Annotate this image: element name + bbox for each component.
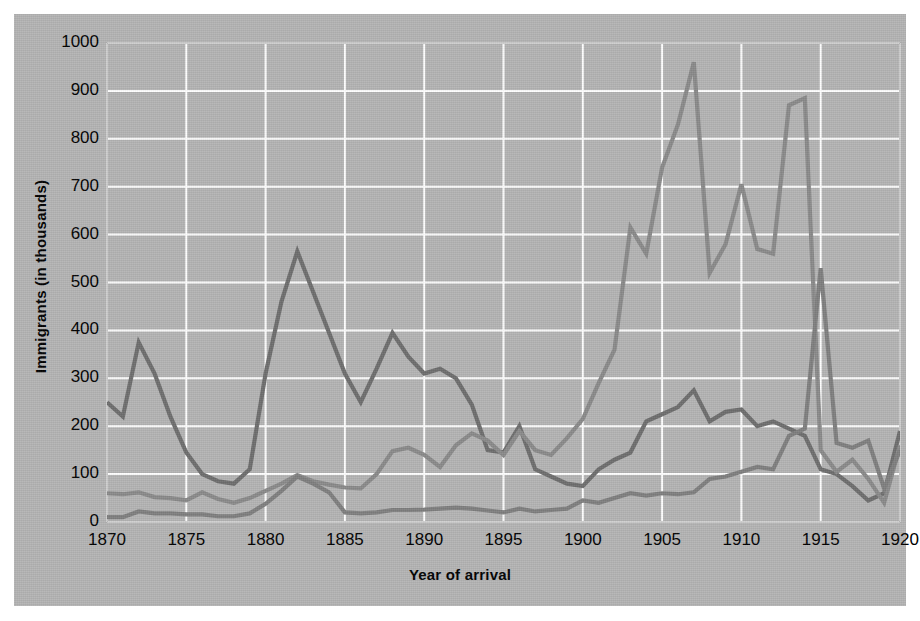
line-chart-plot [0,0,920,621]
chart-figure: 01002003004005006007008009001000 1870187… [0,0,920,621]
